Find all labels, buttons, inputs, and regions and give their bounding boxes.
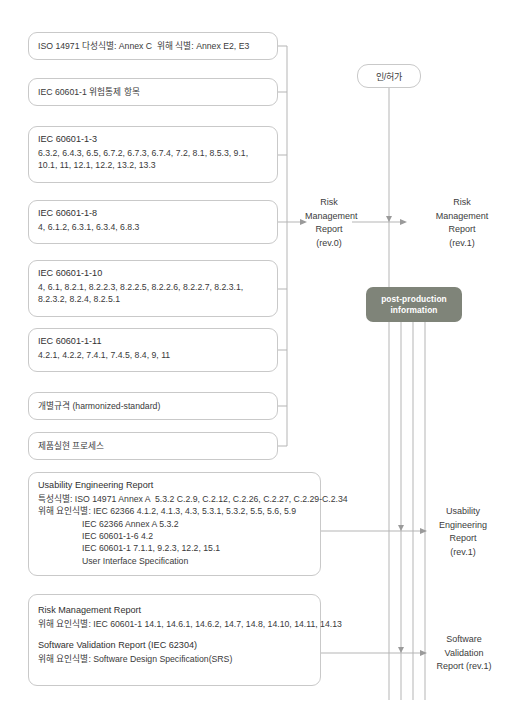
standard-box-iec60601-1-3: IEC 60601-1-3 6.3.2, 6.4.3, 6.5, 6.7.2, … — [28, 126, 278, 183]
box-title: IEC 60601-1-10 — [38, 267, 268, 280]
diagram-canvas: ISO 14971 다성식별: Annex C 위해 식별: Annex E2,… — [0, 0, 511, 715]
label-line: Risk — [305, 196, 353, 210]
box-line: 위해 요인식별: IEC 62366 4.1.2, 4.1.3, 4.3, 5.… — [38, 505, 311, 517]
standard-box-iec60601-1-8: IEC 60601-1-8 4, 6.1.2, 6.3.1, 6.3.4, 6.… — [28, 200, 278, 244]
label-line: Engineering — [430, 519, 496, 533]
output-usability-engineering-report-rev1: Usability Engineering Report (rev.1) — [430, 505, 496, 559]
output-software-validation-report-rev1: Software Validation Report (rev.1) — [428, 633, 500, 674]
post-production-information-badge: post-production information — [366, 287, 462, 322]
approval-badge-label: 인/허가 — [376, 70, 403, 83]
label-line: Management — [305, 210, 353, 224]
output-risk-management-report-rev1: Risk Management Report (rev.1) — [432, 196, 492, 250]
box-line: 4, 6.1, 8.2.1, 8.2.2.3, 8.2.2.5, 8.2.2.6… — [38, 281, 268, 293]
standard-box-product-realization: 제품실현 프로세스 — [28, 432, 278, 460]
risk-report-title: Risk Management Report — [38, 604, 311, 617]
label-line: Validation — [428, 647, 500, 661]
box-line-indented: IEC 60601-1 7.1.1, 9.2.3, 12.2, 15.1 — [38, 542, 311, 554]
box-title: IEC 60601-1-8 — [38, 207, 268, 220]
label-line: Software — [428, 633, 500, 647]
box-line: 4.2.1, 4.2.2, 7.4.1, 7.4.5, 8.4, 9, 11 — [38, 349, 268, 361]
label-line: (rev.0) — [305, 237, 353, 251]
box-title: IEC 60601-1-3 — [38, 133, 268, 146]
box-line: 개별규격 (harmonized-standard) — [38, 400, 160, 412]
label-line: (rev.1) — [432, 237, 492, 251]
post-production-line-1: post-production — [381, 294, 447, 304]
software-report-title: Software Validation Report (IEC 62304) — [38, 639, 311, 652]
box-line: ISO 14971 다성식별: Annex C 위해 식별: Annex E2,… — [38, 40, 249, 52]
output-risk-management-report-rev0: Risk Management Report (rev.0) — [305, 196, 353, 250]
risk-report-line: 위해 요인식별: IEC 60601-1 14.1, 14.6.1, 14.6.… — [38, 618, 311, 630]
box-line: 8.2.3.2, 8.2.4, 8.2.5.1 — [38, 293, 268, 305]
standard-box-harmonized: 개별규격 (harmonized-standard) — [28, 392, 278, 420]
label-line: Report — [305, 223, 353, 237]
label-line: Report (rev.1) — [428, 660, 500, 674]
risk-and-software-validation-box: Risk Management Report 위해 요인식별: IEC 6060… — [28, 594, 321, 686]
box-line-indented: IEC 62366 Annex A 5.3.2 — [38, 518, 311, 530]
label-line: Report — [432, 223, 492, 237]
box-title: Usability Engineering Report — [38, 479, 311, 492]
box-line: 제품실현 프로세스 — [38, 440, 104, 452]
standard-box-iec60601-1: IEC 60601-1 위험통제 항목 — [28, 78, 278, 106]
standard-box-iec60601-1-11: IEC 60601-1-11 4.2.1, 4.2.2, 7.4.1, 7.4.… — [28, 328, 278, 372]
label-line: Risk — [432, 196, 492, 210]
label-line: Usability — [430, 505, 496, 519]
standard-box-iec60601-1-10: IEC 60601-1-10 4, 6.1, 8.2.1, 8.2.2.3, 8… — [28, 260, 278, 317]
box-line: 6.3.2, 6.4.3, 6.5, 6.7.2, 6.7.3, 6.7.4, … — [38, 147, 268, 159]
standard-box-iso14971: ISO 14971 다성식별: Annex C 위해 식별: Annex E2,… — [28, 32, 278, 60]
label-line: Management — [432, 210, 492, 224]
box-line: 4, 6.1.2, 6.3.1, 6.3.4, 6.8.3 — [38, 221, 268, 233]
box-line: 10.1, 11, 12.1, 12.2, 13.2, 13.3 — [38, 159, 268, 171]
usability-engineering-report-box: Usability Engineering Report 특성식별: ISO 1… — [28, 472, 321, 576]
label-line: (rev.1) — [430, 546, 496, 560]
box-line-indented: IEC 60601-1-6 4.2 — [38, 530, 311, 542]
post-production-line-2: information — [390, 305, 437, 315]
software-report-line: 위해 요인식별: Software Design Specification(S… — [38, 653, 311, 665]
box-line: 특성식별: ISO 14971 Annex A 5.3.2 C.2.9, C.2… — [38, 493, 311, 505]
box-line: IEC 60601-1 위험통제 항목 — [38, 86, 140, 98]
approval-badge: 인/허가 — [357, 64, 421, 88]
label-line: Report — [430, 532, 496, 546]
box-title: IEC 60601-1-11 — [38, 335, 268, 348]
box-line-indented: User Interface Specification — [38, 555, 311, 567]
